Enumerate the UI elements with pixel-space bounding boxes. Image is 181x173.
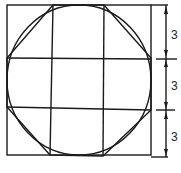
dimension-label-3: 3 [171,130,178,144]
grid-horizontal-2 [7,107,151,110]
geometry-diagram: 3 3 3 [0,0,181,173]
arrow-down-icon [164,149,168,156]
arrow-down-icon [164,102,168,109]
inscribed-circle [7,5,151,155]
arrow-up-icon [164,112,168,119]
grid-vertical-1 [50,5,53,155]
dimension-label-1: 3 [171,28,178,42]
dimension-label-2: 3 [171,79,178,93]
arrow-down-icon [164,50,168,57]
arrow-up-icon [164,6,168,14]
arrow-up-icon [164,60,168,67]
outer-square [7,5,151,155]
grid-horizontal-1 [7,58,151,59]
grid-vertical-2 [103,5,104,156]
